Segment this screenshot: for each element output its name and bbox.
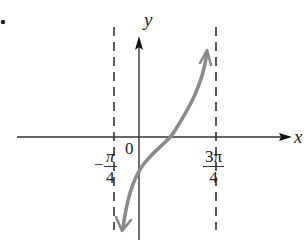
bullet-dot: [1, 20, 5, 24]
left-tick-label: π 4: [104, 148, 117, 186]
y-axis-label: y: [144, 10, 152, 29]
x-axis-label: x: [294, 127, 302, 146]
left-tick-numerator: π: [104, 148, 117, 167]
graph-canvas: [0, 0, 304, 244]
origin-label: 0: [125, 140, 134, 157]
left-tick-denominator: 4: [106, 167, 115, 186]
right-tick-label: 3π 4: [203, 148, 224, 186]
right-tick-numerator: 3π: [203, 148, 224, 167]
right-tick-denominator: 4: [209, 167, 218, 186]
left-tick-sign: −: [94, 156, 104, 173]
function-curve: [123, 52, 207, 228]
